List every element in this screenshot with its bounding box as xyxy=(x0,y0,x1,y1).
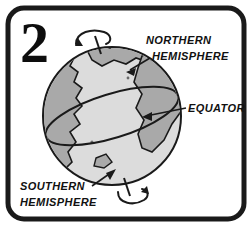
southern-hemisphere-label-line1: SOUTHERN xyxy=(20,180,86,192)
illustration-canvas: 2 NORTHERN HEMISPHERE EQUATOR SOUTHERN H… xyxy=(0,0,252,227)
southern-hemisphere-label-line2: HEMISPHERE xyxy=(20,196,97,208)
land-speck xyxy=(127,77,130,80)
figure-number: 2 xyxy=(20,10,49,75)
northern-hemisphere-label-line2: HEMISPHERE xyxy=(152,50,229,62)
globe-hemispheres-figure: 2 NORTHERN HEMISPHERE EQUATOR SOUTHERN H… xyxy=(0,0,252,227)
northern-hemisphere-label-line1: NORTHERN xyxy=(146,34,212,46)
equator-label: EQUATOR xyxy=(188,102,245,114)
